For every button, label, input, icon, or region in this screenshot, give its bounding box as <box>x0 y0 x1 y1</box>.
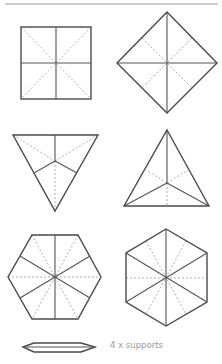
inverted-triangle-template <box>13 135 98 211</box>
supports-label: 4 x supports <box>110 340 163 350</box>
diamond-template <box>117 12 217 113</box>
folding-diagram <box>0 0 222 364</box>
support-piece <box>23 343 95 352</box>
square-template <box>21 27 91 99</box>
hexagon-flat-template <box>8 235 101 319</box>
triangle-template <box>124 130 209 206</box>
hexagon-pointy-template <box>126 229 207 326</box>
